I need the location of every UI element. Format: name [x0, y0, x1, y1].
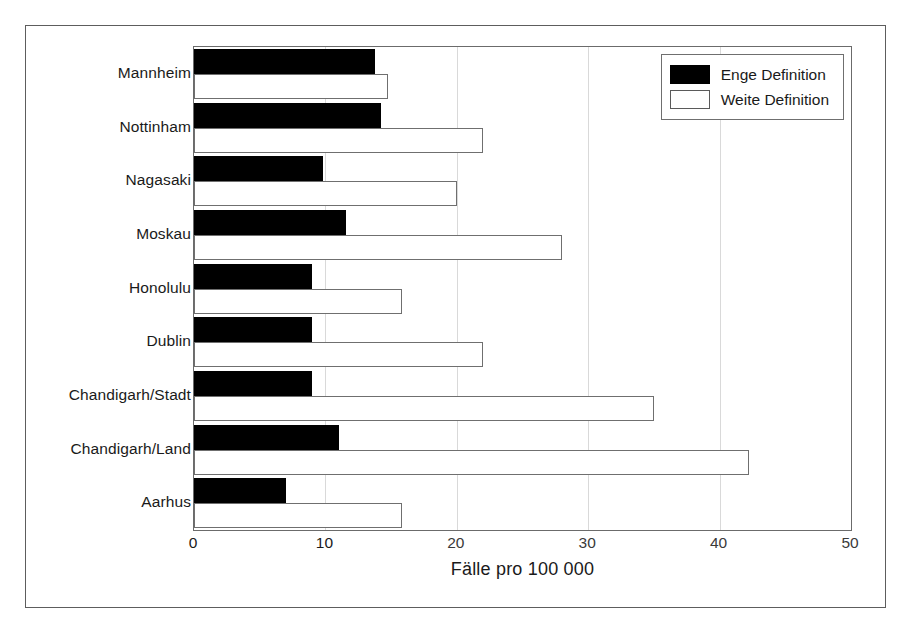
- legend-label-weite-definition: Weite Definition: [721, 91, 829, 109]
- bar-enge: [194, 103, 381, 128]
- bar-weite: [194, 289, 402, 314]
- legend-swatch-filled-icon: [670, 65, 710, 84]
- bar-group: [194, 371, 851, 421]
- bar-weite: [194, 342, 483, 367]
- x-tick-label-50: 50: [841, 534, 858, 552]
- plot-area: Enge Definition Weite Definition: [193, 46, 852, 531]
- bar-group: [194, 317, 851, 367]
- x-tick-label-10: 10: [316, 534, 333, 552]
- category-axis: MannheimNottinhamNagasakiMoskauHonoluluD…: [26, 46, 191, 531]
- legend-item-enge-definition: Enge Definition: [670, 62, 829, 87]
- bar-group: [194, 210, 851, 260]
- bar-weite: [194, 396, 654, 421]
- legend-label-enge-definition: Enge Definition: [721, 66, 826, 84]
- x-axis: 01020304050: [193, 532, 852, 562]
- bar-enge: [194, 371, 312, 396]
- bar-weite: [194, 128, 483, 153]
- bar-weite: [194, 235, 562, 260]
- x-tick-label-0: 0: [189, 534, 198, 552]
- bar-group: [194, 156, 851, 206]
- bar-enge: [194, 264, 312, 289]
- chart-legend: Enge Definition Weite Definition: [661, 54, 844, 120]
- bar-enge: [194, 156, 323, 181]
- bar-group: [194, 264, 851, 314]
- bar-weite: [194, 450, 749, 475]
- legend-swatch-hollow-icon: [670, 90, 710, 109]
- bar-group: [194, 425, 851, 475]
- x-tick-label-30: 30: [579, 534, 596, 552]
- category-label: Chandigarh/Stadt: [26, 387, 191, 403]
- bar-enge: [194, 317, 312, 342]
- bar-weite: [194, 181, 457, 206]
- x-tick-label-20: 20: [447, 534, 464, 552]
- category-label: Mannheim: [26, 65, 191, 81]
- bar-enge: [194, 478, 286, 503]
- bar-weite: [194, 74, 388, 99]
- x-tick-label-40: 40: [710, 534, 727, 552]
- bar-weite: [194, 503, 402, 528]
- category-label: Nottinham: [26, 119, 191, 135]
- category-label: Chandigarh/Land: [26, 441, 191, 457]
- x-axis-title: Fälle pro 100 000: [193, 559, 852, 580]
- bar-enge: [194, 210, 346, 235]
- category-label: Honolulu: [26, 280, 191, 296]
- figure-frame: MannheimNottinhamNagasakiMoskauHonoluluD…: [25, 25, 886, 608]
- category-label: Dublin: [26, 333, 191, 349]
- bar-enge: [194, 49, 375, 74]
- bar-enge: [194, 425, 339, 450]
- bar-group: [194, 478, 851, 528]
- category-label: Aarhus: [26, 494, 191, 510]
- category-label: Nagasaki: [26, 172, 191, 188]
- category-label: Moskau: [26, 226, 191, 242]
- legend-item-weite-definition: Weite Definition: [670, 87, 829, 112]
